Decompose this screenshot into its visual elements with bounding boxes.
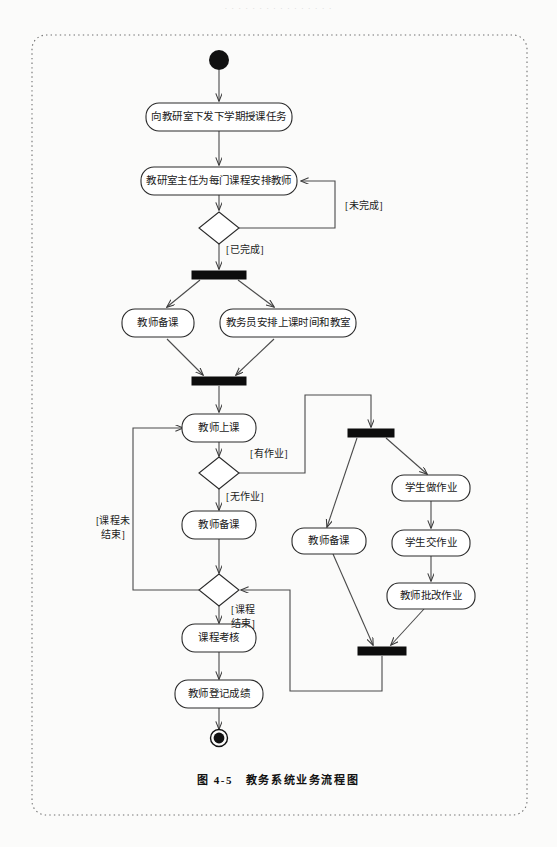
edge-fork2-to-b4 xyxy=(327,438,357,527)
edge-b3-to-join2 xyxy=(391,609,424,645)
initial-node xyxy=(209,50,229,70)
guard-label-course-unfinished-line1: [课程未 xyxy=(96,515,130,526)
guard-label-no-homework: [无作业] xyxy=(226,491,264,502)
edge-fork1-to-a4 xyxy=(238,280,274,307)
edge-fork1-to-a3 xyxy=(167,280,200,307)
fork-bar-1 xyxy=(192,271,246,279)
activity-node-a2[interactable]: 教研室主任为每门课程安排教师 xyxy=(141,167,297,195)
edge-join2-to-d3 xyxy=(241,590,382,691)
guard-label-course-finished-line1: [课程 xyxy=(231,604,255,615)
activity-label-a2: 教研室主任为每门课程安排教师 xyxy=(146,174,292,186)
activity-node-a8[interactable]: 教师登记成绩 xyxy=(175,680,263,708)
activity-label-a5: 教师上课 xyxy=(198,421,240,433)
join-bar-2 xyxy=(358,647,406,655)
activity-node-b3[interactable]: 教师批改作业 xyxy=(387,583,475,609)
edge-a3-to-join1 xyxy=(167,339,203,375)
activity-node-b1[interactable]: 学生做作业 xyxy=(392,475,470,501)
final-node xyxy=(211,730,228,747)
decision-node-d3[interactable] xyxy=(199,574,239,606)
activity-label-a8: 教师登记成绩 xyxy=(188,687,251,699)
guard-label-complete: [已完成] xyxy=(226,243,264,255)
activity-node-b4[interactable]: 教师备课 xyxy=(292,528,366,554)
join-bar-1 xyxy=(192,377,246,385)
decision-node-d2[interactable] xyxy=(199,457,239,489)
activity-label-b2: 学生交作业 xyxy=(405,536,457,548)
node-layer: 向教研室下发下学期授课任务 教研室主任为每门课程安排教师 教师备课 教务员安排上… xyxy=(122,50,475,747)
activity-node-a6[interactable]: 教师备课 xyxy=(182,511,256,539)
activity-node-a1[interactable]: 向教研室下发下学期授课任务 xyxy=(146,103,292,131)
diagram-frame xyxy=(32,35,527,815)
guard-label-course-finished-line2: 结束] xyxy=(231,617,255,629)
activity-label-b3: 教师批改作业 xyxy=(400,589,462,601)
guard-label-course-unfinished-line2: 结束] xyxy=(101,528,125,540)
edge-b4-to-join2 xyxy=(333,554,373,645)
guard-label-incomplete: [未完成] xyxy=(345,199,383,211)
edge-d3-to-a5-loop xyxy=(133,428,199,590)
activity-node-a5[interactable]: 教师上课 xyxy=(182,414,256,442)
guard-label-has-homework: [有作业] xyxy=(250,447,288,459)
activity-node-b2[interactable]: 学生交作业 xyxy=(392,530,470,556)
figure-caption: 图 4-5 教务系统业务流程图 xyxy=(197,773,359,786)
page-canvas: · · · · · · · · · · · · · · · · xyxy=(0,0,557,847)
edge-fork2-to-b1 xyxy=(386,438,427,474)
activity-label-a1: 向教研室下发下学期授课任务 xyxy=(151,110,287,122)
decision-node-d1[interactable] xyxy=(199,212,239,244)
activity-diagram: 向教研室下发下学期授课任务 教研室主任为每门课程安排教师 教师备课 教务员安排上… xyxy=(0,0,557,847)
activity-label-a3: 教师备课 xyxy=(137,316,179,328)
fork-bar-2 xyxy=(348,429,394,437)
activity-label-b1: 学生做作业 xyxy=(405,481,457,493)
activity-label-a4: 教务员安排上课时间和教室 xyxy=(226,316,351,328)
activity-node-a3[interactable]: 教师备课 xyxy=(122,309,194,337)
activity-label-a7: 课程考核 xyxy=(198,631,240,643)
activity-label-a6: 教师备课 xyxy=(198,518,240,530)
activity-label-b4: 教师备课 xyxy=(308,534,350,546)
edge-a4-to-join1 xyxy=(236,339,274,375)
activity-node-a4[interactable]: 教务员安排上课时间和教室 xyxy=(220,309,356,337)
